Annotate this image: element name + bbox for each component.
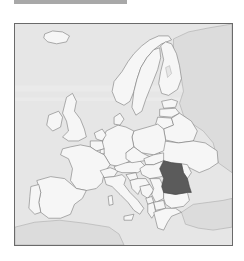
country-portugal[interactable] — [29, 185, 41, 215]
map-svg — [15, 24, 232, 245]
country-estonia[interactable] — [162, 99, 178, 108]
header-bar — [14, 0, 127, 4]
island-sardinia[interactable] — [108, 195, 113, 205]
europe-map — [14, 23, 233, 246]
